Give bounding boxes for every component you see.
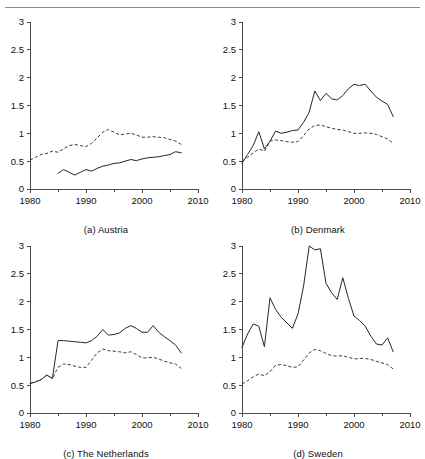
y-tick-label: 1 xyxy=(231,128,236,139)
panel-grid: 00.511.522.531980199020002010 (a) Austri… xyxy=(0,12,425,459)
x-tick-label: 2010 xyxy=(187,195,208,206)
x-tick-label: 1980 xyxy=(231,195,252,206)
y-tick-label: 2 xyxy=(231,72,236,83)
x-tick-label: 1980 xyxy=(19,195,40,206)
y-tick-label: 3 xyxy=(231,16,236,27)
x-tick-label: 1990 xyxy=(75,195,96,206)
panel-netherlands: 00.511.522.531980199020002010 (c) The Ne… xyxy=(0,236,212,459)
header-rule xyxy=(5,7,420,8)
panel-austria: 00.511.522.531980199020002010 (a) Austri… xyxy=(0,12,212,235)
y-tick-label: 1.5 xyxy=(223,324,236,335)
x-tick-label: 2000 xyxy=(343,419,364,430)
x-tick-label: 2010 xyxy=(399,419,420,430)
chart-netherlands: 00.511.522.531980199020002010 xyxy=(0,236,212,442)
y-tick-label: 3 xyxy=(231,240,236,251)
series-line-solid xyxy=(242,84,393,163)
y-tick-label: 3 xyxy=(19,16,24,27)
chart-sweden: 00.511.522.531980199020002010 xyxy=(212,236,424,442)
chart-austria: 00.511.522.531980199020002010 xyxy=(0,12,212,218)
y-tick-label: 0.5 xyxy=(11,380,24,391)
y-tick-label: 0 xyxy=(19,407,24,418)
x-tick-label: 1980 xyxy=(19,419,40,430)
panel-caption-austria: (a) Austria xyxy=(0,224,212,235)
y-tick-label: 0.5 xyxy=(223,156,236,167)
series-line-solid xyxy=(58,152,181,175)
y-tick-label: 2 xyxy=(19,296,24,307)
x-tick-label: 2010 xyxy=(399,195,420,206)
y-tick-label: 1.5 xyxy=(11,324,24,335)
y-tick-label: 3 xyxy=(19,240,24,251)
figure-container: 00.511.522.531980199020002010 (a) Austri… xyxy=(0,0,425,459)
x-tick-label: 2000 xyxy=(131,195,152,206)
x-tick-label: 2000 xyxy=(131,419,152,430)
series-line-dashed xyxy=(242,125,393,161)
y-tick-label: 2 xyxy=(19,72,24,83)
y-tick-label: 1 xyxy=(19,352,24,363)
y-tick-label: 2 xyxy=(231,296,236,307)
y-tick-label: 1.5 xyxy=(223,100,236,111)
panel-caption-denmark: (b) Denmark xyxy=(212,224,424,235)
panel-caption-netherlands: (c) The Netherlands xyxy=(0,448,212,459)
series-line-solid xyxy=(30,326,181,384)
panel-caption-sweden: (d) Sweden xyxy=(212,448,424,459)
x-tick-label: 2010 xyxy=(187,419,208,430)
y-tick-label: 1.5 xyxy=(11,100,24,111)
chart-denmark: 00.511.522.531980199020002010 xyxy=(212,12,424,218)
y-tick-label: 2.5 xyxy=(11,268,24,279)
y-tick-label: 0 xyxy=(231,183,236,194)
y-tick-label: 0 xyxy=(19,183,24,194)
y-tick-label: 2.5 xyxy=(223,268,236,279)
series-line-dashed xyxy=(242,350,393,385)
x-tick-label: 2000 xyxy=(343,195,364,206)
y-tick-label: 2.5 xyxy=(223,44,236,55)
y-tick-label: 0.5 xyxy=(223,380,236,391)
series-line-dashed xyxy=(30,129,181,160)
panel-denmark: 00.511.522.531980199020002010 (b) Denmar… xyxy=(212,12,424,235)
y-tick-label: 1 xyxy=(19,128,24,139)
panel-sweden: 00.511.522.531980199020002010 (d) Sweden xyxy=(212,236,424,459)
x-tick-label: 1990 xyxy=(287,419,308,430)
y-tick-label: 1 xyxy=(231,352,236,363)
y-tick-label: 0 xyxy=(231,407,236,418)
x-tick-label: 1990 xyxy=(287,195,308,206)
y-tick-label: 2.5 xyxy=(11,44,24,55)
x-tick-label: 1980 xyxy=(231,419,252,430)
x-tick-label: 1990 xyxy=(75,419,96,430)
series-line-solid xyxy=(242,246,393,352)
y-tick-label: 0.5 xyxy=(11,156,24,167)
